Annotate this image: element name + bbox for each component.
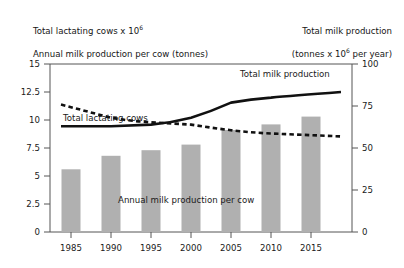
left-tick-label: 2.5: [26, 199, 40, 209]
x-tick-label-2010: 2010: [260, 243, 282, 253]
x-axis-ticks: 1985 1990 1995 2000 2005 2010 2015: [60, 232, 322, 253]
annotation-total-milk-production: Total milk production: [239, 69, 330, 79]
right-axis-ticks: 0 25 50 75 100: [352, 59, 378, 237]
bar-2010: [262, 124, 281, 232]
x-tick-label-2015: 2015: [300, 243, 322, 253]
bar-2000: [182, 145, 201, 232]
bar-1995: [142, 150, 161, 232]
left-tick-label: 0: [35, 227, 40, 237]
left-tick-label: 5: [35, 171, 40, 181]
left-tick-label: 10: [29, 115, 40, 125]
x-tick-label-2000: 2000: [180, 243, 202, 253]
left-axis-ticks: 0 2.5 5 7.5 10 12.5 15: [21, 59, 50, 237]
right-tick-label: 50: [362, 143, 373, 153]
left-tick-label: 15: [29, 59, 40, 69]
right-tick-label: 75: [362, 101, 373, 111]
x-tick-label-1985: 1985: [60, 243, 82, 253]
right-tick-label: 0: [362, 227, 367, 237]
x-tick-label-1990: 1990: [100, 243, 122, 253]
bar-1985: [62, 169, 81, 232]
x-tick-label-1995: 1995: [140, 243, 162, 253]
right-tick-label: 100: [362, 59, 378, 69]
bar-series-annual-milk-per-cow: [62, 117, 321, 232]
annotation-total-lactating-cows: Total lactating cows: [62, 113, 148, 123]
chart-svg: 0 2.5 5 7.5 10 12.5 15 0 25 50 75 100: [0, 0, 404, 268]
left-tick-label: 12.5: [21, 87, 40, 97]
x-tick-label-2005: 2005: [220, 243, 242, 253]
right-tick-label: 25: [362, 185, 373, 195]
chart-container: Total lactating cows x 106 Annual milk p…: [0, 0, 404, 268]
bar-2015: [302, 117, 321, 232]
annotation-annual-milk-per-cow: Annual milk production per cow: [118, 195, 254, 205]
left-tick-label: 7.5: [26, 143, 40, 153]
bar-2005: [222, 130, 241, 232]
